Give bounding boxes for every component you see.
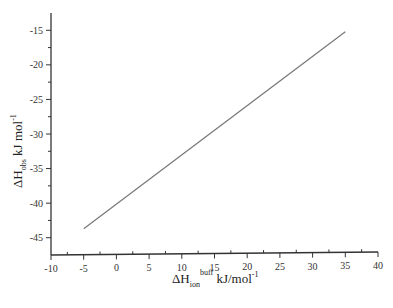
x-tick-label: 25 xyxy=(275,261,285,272)
chart: -10-50510152025303540-45-40-35-30-25-20-… xyxy=(0,0,393,308)
x-tick-label: 30 xyxy=(308,261,318,272)
ticks: -10-50510152025303540-45-40-35-30-25-20-… xyxy=(30,25,383,274)
svg-text:ΔHionbuff kJ/mol-1: ΔHionbuff kJ/mol-1 xyxy=(172,268,259,289)
x-axis-title: ΔHionbuff kJ/mol-1 xyxy=(172,268,259,289)
data-series xyxy=(84,32,346,229)
x-tick-label: 40 xyxy=(373,260,383,271)
y-tick-label: -35 xyxy=(30,163,43,174)
svg-text:ΔHobs kJ mol-1: ΔHobs kJ mol-1 xyxy=(9,114,28,188)
y-tick-label: -25 xyxy=(30,94,43,105)
y-tick-label: -20 xyxy=(30,59,43,70)
x-tick-label: 0 xyxy=(114,262,119,273)
y-tick-label: -15 xyxy=(30,25,43,36)
x-tick-label: -10 xyxy=(44,263,57,274)
y-tick-label: -45 xyxy=(30,232,43,243)
y-axis-title: ΔHobs kJ mol-1 xyxy=(9,114,28,188)
x-tick-label: 5 xyxy=(147,262,152,273)
y-tick-label: -40 xyxy=(30,198,43,209)
x-tick-label: -5 xyxy=(80,263,88,274)
axes xyxy=(51,13,378,255)
y-tick-label: -30 xyxy=(30,129,43,140)
x-tick-label: 35 xyxy=(340,260,350,271)
fit-line xyxy=(84,32,346,229)
